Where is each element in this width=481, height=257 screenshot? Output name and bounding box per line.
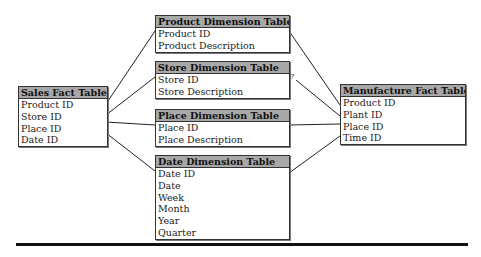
- table-field: Plant ID: [341, 109, 465, 121]
- table-field: Place ID: [19, 123, 107, 135]
- table-field: Date: [156, 180, 289, 192]
- table-field: Place ID: [341, 121, 465, 133]
- product-dimension-table: Product Dimension Table Product ID Produ…: [155, 15, 290, 53]
- table-title: Product Dimension Table: [156, 16, 289, 28]
- table-field: Store ID: [156, 74, 289, 86]
- table-field: Month: [156, 203, 289, 215]
- table-field: Store Description: [156, 86, 289, 98]
- manufacture-fact-table: Manufacture Fact Table Product ID Plant …: [340, 84, 466, 145]
- unknown-link-annotation: ?: [290, 72, 294, 81]
- table-field: Date ID: [156, 168, 289, 180]
- link-place-manufacture: [289, 124, 340, 125]
- link-date-manufacture: [289, 136, 340, 173]
- horizontal-rule-divider: [16, 243, 468, 246]
- table-field: Product ID: [341, 97, 465, 109]
- link-sales-store: [106, 77, 155, 115]
- table-field: Quarter: [156, 227, 289, 239]
- date-dimension-table: Date Dimension Table Date ID Date Week M…: [155, 155, 290, 240]
- table-title: Sales Fact Table: [19, 87, 107, 99]
- table-field: Product ID: [19, 99, 107, 111]
- table-title: Place Dimension Table: [156, 110, 289, 122]
- store-dimension-table: Store Dimension Table Store ID Store Des…: [155, 61, 290, 99]
- link-store-manufacture: [296, 80, 340, 116]
- table-field: Place Description: [156, 134, 289, 146]
- place-dimension-table: Place Dimension Table Place ID Place Des…: [155, 109, 290, 147]
- table-title: Date Dimension Table: [156, 156, 289, 168]
- table-field: Week: [156, 192, 289, 204]
- table-field: Year: [156, 215, 289, 227]
- table-field: Product Description: [156, 40, 289, 52]
- table-field: Product ID: [156, 28, 289, 40]
- link-product-manufacture: [289, 31, 340, 105]
- link-sales-place: [106, 122, 155, 125]
- link-sales-product: [106, 31, 155, 104]
- table-field: Place ID: [156, 122, 289, 134]
- sales-fact-table: Sales Fact Table Product ID Store ID Pla…: [18, 86, 108, 147]
- table-field: Time ID: [341, 132, 465, 144]
- link-sales-date: [106, 133, 155, 171]
- table-field: Date ID: [19, 134, 107, 146]
- table-title: Store Dimension Table: [156, 62, 289, 74]
- table-title: Manufacture Fact Table: [341, 85, 465, 97]
- table-field: Store ID: [19, 111, 107, 123]
